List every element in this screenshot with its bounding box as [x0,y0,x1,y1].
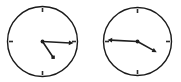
left-clock [8,7,78,77]
right-clock-center-pin [136,40,140,44]
right-clock [104,8,172,76]
clock-diagram [0,0,181,82]
clock-diagram-canvas [0,0,181,82]
left-clock-hour-hand-tip [51,56,54,59]
left-clock-center-pin [41,40,45,44]
